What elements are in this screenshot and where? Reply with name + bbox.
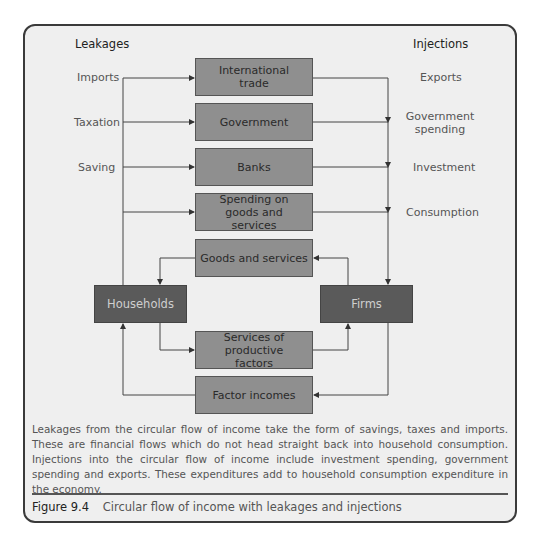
caption-text: Circular flow of income with leakages an… (103, 500, 402, 514)
injection-consumption: Consumption (406, 206, 479, 219)
spending-box: Spending on goods and services (195, 193, 313, 231)
injection-investment: Investment (413, 161, 475, 174)
services-factors-box: Services of productive factors (195, 331, 313, 369)
banks-box: Banks (195, 148, 313, 186)
households-box: Households (94, 285, 187, 323)
figure-description: Leakages from the circular flow of incom… (32, 422, 508, 497)
caption-divider (32, 493, 508, 495)
injection-government-spending: Government spending (405, 110, 475, 136)
factor-incomes-box: Factor incomes (195, 376, 313, 414)
leakage-imports: Imports (77, 71, 119, 84)
goods-services-box: Goods and services (195, 239, 313, 277)
leakage-taxation: Taxation (74, 116, 120, 129)
firms-box: Firms (320, 285, 413, 323)
caption-number: Figure 9.4 (32, 500, 89, 514)
figure-caption: Figure 9.4 Circular flow of income with … (32, 500, 402, 514)
international-trade-box: International trade (195, 58, 313, 96)
leakages-header: Leakages (75, 37, 129, 51)
injections-header: Injections (413, 37, 468, 51)
injection-exports: Exports (420, 71, 462, 84)
government-box: Government (195, 103, 313, 141)
leakage-saving: Saving (78, 161, 115, 174)
